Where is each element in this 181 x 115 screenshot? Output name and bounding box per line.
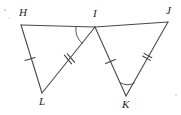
vertex-label-I: I: [93, 8, 97, 19]
segment-IJ: [95, 22, 168, 27]
segment-HI: [21, 25, 95, 27]
geometry-canvas: [0, 0, 181, 115]
angle-arc-at-I: [76, 27, 83, 44]
angle-arc-at-K: [120, 83, 135, 85]
tick-single-IK: [106, 59, 116, 63]
tick-double-IL-a: [64, 55, 71, 64]
scan-speck: [4, 9, 5, 10]
tick-single-HL: [25, 58, 35, 61]
tick-double-IL-b: [67, 54, 74, 63]
vertex-label-J: J: [166, 5, 171, 16]
vertex-label-L: L: [39, 96, 45, 107]
vertex-label-H: H: [19, 7, 27, 18]
scan-speck: [175, 94, 176, 95]
vertex-label-K: K: [122, 99, 129, 110]
geometry-figure: H I J L K: [0, 0, 181, 115]
scan-speck: [9, 18, 10, 19]
